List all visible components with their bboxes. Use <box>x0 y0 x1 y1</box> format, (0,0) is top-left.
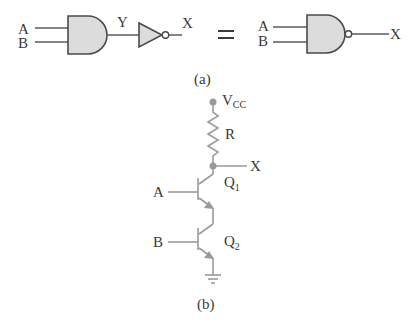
diagram-canvas: A B Y X A B X (a) VCC R <box>0 0 410 329</box>
nand-circuit: A B X <box>258 15 401 53</box>
label-input-b: B <box>18 35 28 51</box>
label-x: X <box>390 26 401 42</box>
resistor-icon <box>208 105 218 166</box>
label-input-b: B <box>153 234 163 250</box>
q2-collector <box>199 224 213 234</box>
label-q1: Q1 <box>224 174 240 193</box>
q1-collector <box>199 174 213 184</box>
ground-icon <box>205 275 221 283</box>
label-vcc: VCC <box>222 92 247 110</box>
label-x: X <box>182 15 193 31</box>
label-x: X <box>250 158 261 174</box>
label-input-a: A <box>258 18 269 34</box>
label-r: R <box>225 126 235 142</box>
label-input-a: A <box>153 184 164 200</box>
inversion-bubble-icon <box>345 31 351 37</box>
caption-a: (a) <box>194 71 211 88</box>
equals-sign <box>218 31 234 38</box>
vcc-terminal-icon <box>210 99 217 106</box>
inversion-bubble-icon <box>162 32 168 38</box>
nand-gate-icon <box>307 15 345 53</box>
label-q2: Q2 <box>224 233 240 252</box>
label-y: Y <box>117 14 128 30</box>
transistor-nand-circuit: VCC R X A Q1 B Q2 <box>153 92 261 283</box>
not-gate-icon <box>139 23 162 47</box>
label-input-b: B <box>258 33 268 49</box>
caption-b: (b) <box>197 296 215 313</box>
and-not-circuit: A B Y X <box>18 14 193 54</box>
and-gate-icon <box>68 16 107 54</box>
